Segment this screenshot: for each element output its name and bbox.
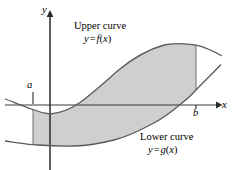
y-axis-label: y — [42, 4, 47, 15]
area-between-curves-figure: Upper curve y=f(x) Lower curve y=g(x) y … — [0, 0, 235, 170]
upper-equation-relation: = — [89, 33, 97, 44]
upper-curve-equation: y=f(x) — [84, 33, 111, 44]
upper-curve-caption: Upper curve — [74, 20, 126, 31]
y-axis-arrowhead — [47, 10, 54, 17]
bound-a-label: a — [27, 79, 32, 90]
lower-curve-caption: Lower curve — [140, 131, 193, 142]
lower-equation-relation: = — [153, 144, 161, 155]
upper-equation-close-paren: ) — [108, 33, 112, 44]
upper-equation-lhs: y — [84, 33, 89, 44]
lower-equation-lhs: y — [148, 144, 153, 155]
lower-equation-close-paren: ) — [174, 144, 178, 155]
x-axis-label: x — [222, 99, 227, 110]
lower-curve-equation: y=g(x) — [148, 144, 178, 155]
bound-b-label: b — [193, 107, 198, 118]
